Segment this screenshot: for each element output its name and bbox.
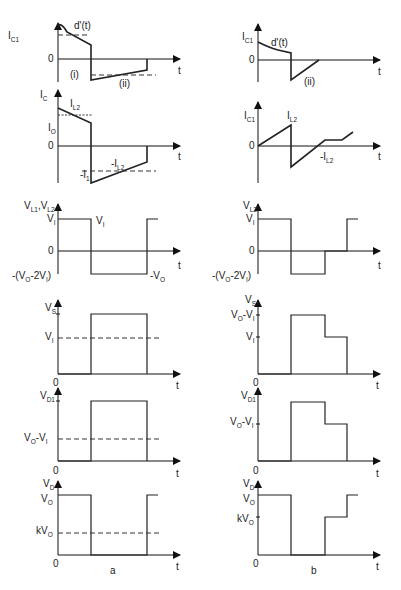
ic1-b-waveform	[258, 42, 319, 80]
vd-waveform	[58, 495, 158, 555]
panel-vl2-b: VL2 VI 0 t -(VO-2VI)	[212, 200, 381, 283]
level-vo: VO	[41, 493, 53, 506]
zero-label: 0	[249, 54, 255, 65]
ylabel: IC1	[242, 31, 253, 44]
ylabel: IC1	[8, 30, 19, 43]
panel-vs-a: VS VI 0 t	[45, 300, 180, 391]
panel-vd1-a: VD1 VO-VI 0 t	[24, 388, 180, 479]
ylabel: VL1,VL2	[24, 200, 55, 213]
caption-a: a	[110, 565, 116, 576]
t-label: t	[378, 260, 381, 271]
ylabel: VL2	[243, 200, 257, 213]
level-kvo: kVO	[36, 525, 53, 538]
ylabel: VS	[245, 294, 257, 307]
panel-ic1-b: IC1 0 t d'(t) (ii)	[242, 24, 381, 87]
t-label: t	[178, 65, 181, 76]
vs-b-waveform	[258, 315, 347, 374]
panel-vs-b: VS VO-VI VI 0 t	[231, 294, 380, 391]
panel-ic-a: IC IO 0 t -I1 IL2 -IL2	[40, 89, 181, 183]
t-label: t	[178, 260, 181, 271]
panel-vd-a: VD VO kVO 0 t a	[36, 478, 180, 576]
zero-label: 0	[249, 140, 255, 151]
annotation-ii: (ii)	[304, 76, 315, 87]
t-label: t	[378, 66, 381, 77]
vd1-b-waveform	[258, 402, 347, 461]
panel-vd1-b: VD1 VO-VI 0 t	[230, 388, 380, 479]
t-label: t	[176, 561, 179, 572]
level-vo-vi: VO-VI	[24, 432, 48, 445]
level-vo: VO	[243, 493, 255, 506]
t-label: t	[376, 468, 379, 479]
panel-vd-b: VD VO kVO 0 t b	[237, 478, 380, 576]
level-vo-vi: VO-VI	[230, 416, 254, 429]
t-label: t	[376, 380, 379, 391]
zero-label: 0	[53, 558, 59, 569]
annotation-minus-il2: -IL2	[320, 151, 334, 164]
level-kvo: kVO	[237, 513, 254, 526]
zero-label: 0	[253, 465, 259, 476]
level-vi: VI	[246, 331, 255, 344]
ylabel: VD1	[241, 390, 256, 403]
caption-b: b	[311, 565, 317, 576]
t-label: t	[176, 380, 179, 391]
zero-label: 0	[48, 245, 54, 256]
level-minus-i1: -I1	[80, 169, 90, 182]
ylabel: VD	[243, 478, 255, 491]
t-label: t	[376, 561, 379, 572]
level-vi: VI	[246, 213, 255, 226]
ylabel: IC1	[244, 110, 255, 123]
vl-waveform	[58, 219, 158, 274]
t-label: t	[178, 151, 181, 162]
level-io: IO	[48, 122, 56, 135]
vl2-waveform	[258, 219, 358, 274]
annotation-i: (i)	[70, 69, 79, 80]
zero-label: 0	[48, 140, 54, 151]
ylabel: VD1	[40, 390, 55, 403]
vd-b-waveform	[258, 495, 358, 555]
zero-label: 0	[48, 53, 54, 64]
t-label: t	[176, 468, 179, 479]
annotation-dprime: d'(t)	[74, 20, 91, 31]
zero-label: 0	[253, 377, 259, 388]
panel-ic1-a: IC1 0 t d'(t) (i) (ii)	[8, 20, 181, 89]
zero-label: 0	[249, 245, 255, 256]
ylabel: VD	[43, 478, 55, 491]
level-neg-vo-2vi: -(VO-2VI)	[12, 270, 51, 283]
annotation-vi: VI	[96, 215, 105, 228]
panel-ic1-b2: IC1 0 t IL2 -IL2	[244, 102, 381, 183]
level-vo-vi: VO-VI	[231, 309, 255, 322]
vd1-waveform	[58, 401, 147, 461]
annotation-dprime: d'(t)	[271, 37, 288, 48]
annotation-il2: IL2	[287, 110, 297, 123]
annotation-minus-vo: -VO	[150, 270, 165, 283]
annotation-il2: IL2	[70, 98, 80, 111]
panel-vl-a: VL1,VL2 VI 0 t -(VO-2VI) VI -VO	[12, 200, 181, 283]
ylabel: IC	[40, 89, 48, 102]
zero-label: 0	[253, 558, 259, 569]
annotation-minus-il2: -IL2	[111, 158, 125, 171]
vs-waveform	[58, 314, 147, 374]
zero-label: 0	[53, 377, 59, 388]
ylabel: VS	[45, 302, 57, 315]
level-vi: VI	[47, 213, 56, 226]
level-vi: VI	[45, 331, 54, 344]
zero-label: 0	[53, 465, 59, 476]
converter-waveform-diagram: IC1 0 t d'(t) (i) (ii) IC IO 0 t -I1 IL2…	[0, 0, 401, 590]
annotation-ii: (ii)	[119, 78, 130, 89]
t-label: t	[378, 151, 381, 162]
level-neg-vo-2vi: -(VO-2VI)	[212, 270, 251, 283]
